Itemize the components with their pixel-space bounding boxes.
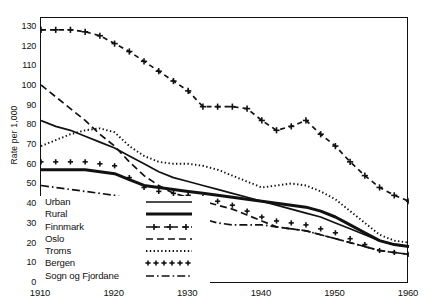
y-tick-0: 0 <box>10 278 36 287</box>
x-tick-1950: 1950 <box>314 288 354 298</box>
y-tick-90: 90 <box>10 101 36 110</box>
y-tick-110: 110 <box>10 61 36 70</box>
y-tick-30: 30 <box>10 219 36 228</box>
legend-label: Sogn og Fjordane <box>45 270 119 282</box>
legend-sample-svg <box>144 196 204 208</box>
legend-line-sample <box>144 221 204 233</box>
legend-item-finnmark[interactable]: Finnmark <box>40 221 210 233</box>
legend-label: Bergen <box>45 257 75 269</box>
y-tick-40: 40 <box>10 199 36 208</box>
x-axis-tick-labels: 191019201930194019501960 <box>0 288 424 302</box>
legend-item-rural[interactable]: Rural <box>40 208 210 220</box>
x-tick-1930: 1930 <box>167 288 207 298</box>
legend-line-sample <box>144 233 204 245</box>
legend-sample-svg <box>144 221 204 233</box>
chart-figure: Rate per 1,000 0102030405060708090100110… <box>0 0 424 307</box>
legend-line-sample <box>144 257 204 269</box>
legend-item-bergen[interactable]: Bergen <box>40 257 210 269</box>
legend-label: Troms <box>45 245 71 257</box>
y-tick-70: 70 <box>10 140 36 149</box>
series-line <box>41 30 409 201</box>
legend-label: Oslo <box>45 233 64 245</box>
legend-sample-svg <box>144 257 204 269</box>
legend-line-sample <box>144 196 204 208</box>
x-tick-1960: 1960 <box>388 288 424 298</box>
legend: UrbanRuralFinnmarkOsloTromsBergenSogn og… <box>40 196 210 283</box>
x-tick-1910: 1910 <box>20 288 60 298</box>
legend-label: Urban <box>45 196 70 208</box>
legend-sample-svg <box>144 270 204 282</box>
legend-line-sample <box>144 245 204 257</box>
y-axis-tick-labels: 0102030405060708090100110120130 <box>6 0 36 307</box>
y-tick-100: 100 <box>10 81 36 90</box>
legend-label: Rural <box>45 208 67 220</box>
legend-line-sample <box>144 270 204 282</box>
y-tick-130: 130 <box>10 22 36 31</box>
legend-item-troms[interactable]: Troms <box>40 245 210 257</box>
y-tick-20: 20 <box>10 239 36 248</box>
x-tick-1940: 1940 <box>241 288 281 298</box>
legend-sample-svg <box>144 208 204 220</box>
legend-item-sogn-og-fjordane[interactable]: Sogn og Fjordane <box>40 270 210 282</box>
y-tick-60: 60 <box>10 160 36 169</box>
legend-sample-svg <box>144 233 204 245</box>
y-tick-50: 50 <box>10 179 36 188</box>
x-tick-1920: 1920 <box>94 288 134 298</box>
y-tick-10: 10 <box>10 258 36 267</box>
series-finnmark <box>41 27 409 205</box>
y-tick-80: 80 <box>10 120 36 129</box>
legend-item-urban[interactable]: Urban <box>40 196 210 208</box>
legend-line-sample <box>144 208 204 220</box>
y-tick-120: 120 <box>10 42 36 51</box>
legend-item-oslo[interactable]: Oslo <box>40 233 210 245</box>
legend-label: Finnmark <box>45 221 84 233</box>
legend-sample-svg <box>144 245 204 257</box>
